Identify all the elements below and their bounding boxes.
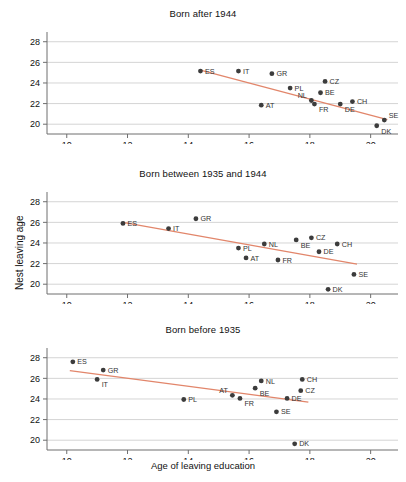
- data-point-label: GR: [108, 366, 119, 375]
- data-point: [312, 102, 317, 107]
- data-point-label: CH: [357, 97, 367, 106]
- x-axis-tick-label: 10: [62, 140, 72, 144]
- data-point: [269, 71, 274, 76]
- y-axis-tick-label: 28: [30, 353, 40, 363]
- y-axis-tick-label: 24: [30, 78, 40, 88]
- x-axis-tick-label: 14: [183, 300, 193, 304]
- scatter-svg: 2022242628101214161820ESGRITPLATFRBENLSE…: [0, 342, 406, 460]
- data-point-label: BE: [260, 389, 270, 398]
- x-axis-tick-label: 20: [366, 300, 376, 304]
- data-point: [335, 242, 340, 247]
- x-axis-tick-label: 12: [123, 140, 133, 144]
- y-axis-tick-label: 28: [30, 37, 40, 47]
- data-point: [262, 242, 267, 247]
- panel-born-between-1935-and-1944: Born between 1935 and 1944 2022242628101…: [0, 168, 406, 320]
- data-point-label: DK: [333, 285, 343, 294]
- x-axis-tick-label: 20: [366, 140, 376, 144]
- x-axis-tick-label: 10: [62, 300, 72, 304]
- y-axis-tick-label: 22: [30, 99, 40, 109]
- y-axis-tick-label: 22: [30, 259, 40, 269]
- panel-born-after-1944: Born after 1944 2022242628101214161820ES…: [0, 8, 406, 160]
- data-point-label: IT: [173, 224, 180, 233]
- data-point: [276, 258, 281, 263]
- y-axis-tick-label: 26: [30, 374, 40, 384]
- data-point-label: ES: [205, 67, 215, 76]
- y-axis-tick-label: 20: [30, 119, 40, 129]
- x-axis-tick-label: 18: [305, 300, 315, 304]
- data-point-label: CZ: [316, 233, 326, 242]
- data-point: [382, 118, 387, 123]
- data-point-label: IT: [243, 67, 250, 76]
- data-point-label: SE: [389, 111, 399, 120]
- data-point: [292, 441, 297, 446]
- data-point: [300, 377, 305, 382]
- data-point: [294, 237, 299, 242]
- panel-title: Born after 1944: [0, 8, 406, 19]
- y-axis-tick-label: 20: [30, 435, 40, 445]
- data-point: [374, 123, 379, 128]
- scatter-plot-area: 2022242628101214161820ESITGRPLATNLFRBECZ…: [0, 186, 406, 304]
- data-point: [194, 216, 199, 221]
- data-point-label: CH: [342, 240, 352, 249]
- data-point-label: DE: [292, 394, 302, 403]
- data-point: [352, 272, 357, 277]
- y-axis-label: Nest leaving age: [14, 216, 25, 291]
- data-point-label: GR: [276, 69, 287, 78]
- data-point-label: BE: [325, 88, 335, 97]
- data-point: [309, 235, 314, 240]
- data-point-label: NL: [266, 377, 275, 386]
- x-axis-tick-label: 14: [183, 140, 193, 144]
- data-point: [236, 69, 241, 74]
- panel-title: Born before 1935: [0, 324, 406, 335]
- data-point: [244, 256, 249, 261]
- data-point-label: CH: [307, 375, 317, 384]
- data-point: [101, 368, 106, 373]
- data-point: [288, 86, 293, 91]
- data-point: [338, 102, 343, 107]
- data-point-label: AT: [219, 386, 228, 395]
- data-point-label: CZ: [305, 386, 315, 395]
- data-point: [181, 397, 186, 402]
- data-point: [274, 409, 279, 414]
- data-point-label: SE: [281, 407, 291, 416]
- data-point-label: ES: [77, 357, 87, 366]
- panel-title: Born between 1935 and 1944: [0, 168, 406, 179]
- data-point-label: IT: [102, 380, 109, 389]
- x-axis-tick-label: 16: [244, 300, 254, 304]
- scatter-svg: 2022242628101214161820ESITGRPLATNLFRBECZ…: [0, 186, 406, 304]
- data-point: [259, 379, 264, 384]
- data-point: [285, 396, 290, 401]
- y-axis-tick-label: 26: [30, 58, 40, 68]
- y-axis-tick-label: 24: [30, 394, 40, 404]
- x-axis-label: Age of leaving education: [0, 460, 406, 471]
- data-point-label: SE: [358, 270, 368, 279]
- data-point: [198, 69, 203, 74]
- data-point-label: FR: [244, 399, 254, 408]
- data-point-label: ES: [127, 219, 137, 228]
- scatter-svg: 2022242628101214161820ESITGRCZPLBENLFRCH…: [0, 26, 406, 144]
- data-point-label: DE: [323, 247, 333, 256]
- data-point-label: DK: [299, 439, 309, 448]
- y-axis-tick-label: 24: [30, 238, 40, 248]
- y-axis-tick-label: 22: [30, 415, 40, 425]
- data-point: [326, 287, 331, 292]
- data-point-label: FR: [282, 256, 292, 265]
- data-point: [121, 221, 126, 226]
- data-point: [318, 90, 323, 95]
- data-point: [238, 396, 243, 401]
- y-axis-tick-label: 20: [30, 279, 40, 289]
- data-point-label: CZ: [330, 77, 340, 86]
- data-point: [323, 79, 328, 84]
- data-point: [70, 359, 75, 364]
- x-axis-tick-label: 18: [305, 140, 315, 144]
- data-point-label: FR: [319, 105, 329, 114]
- data-point: [230, 393, 235, 398]
- data-point-label: BE: [301, 241, 311, 250]
- data-point-label: DK: [381, 127, 391, 136]
- data-point: [253, 386, 258, 391]
- scatter-plot-area: 2022242628101214161820ESGRITPLATFRBENLSE…: [0, 342, 406, 460]
- data-point: [95, 377, 100, 382]
- figure-root: Born after 1944 2022242628101214161820ES…: [0, 0, 406, 482]
- data-point: [236, 246, 241, 251]
- data-point-label: NL: [269, 240, 278, 249]
